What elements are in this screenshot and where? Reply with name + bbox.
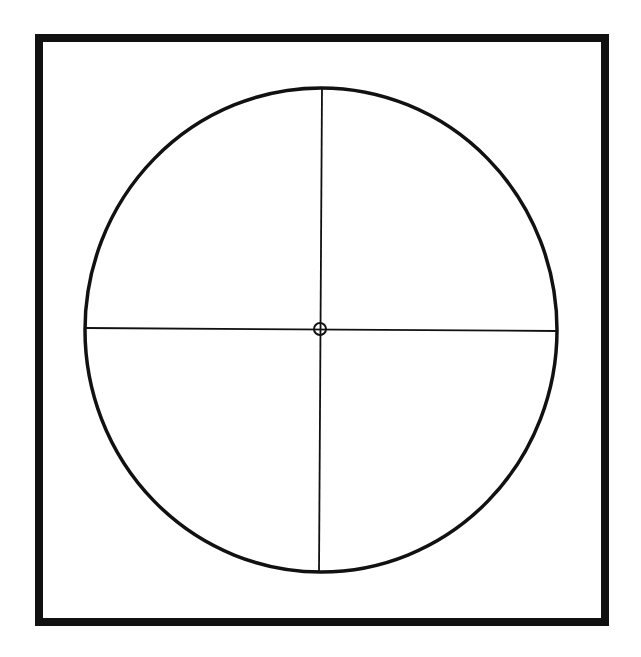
diagram-canvas [0, 0, 641, 657]
circle-crosshair-diagram [0, 0, 641, 657]
